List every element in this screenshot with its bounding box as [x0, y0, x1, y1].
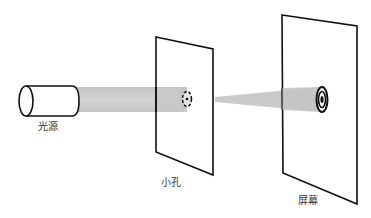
pinhole-aperture	[183, 92, 192, 107]
light-source-label: 光源	[38, 118, 58, 133]
truncated-caption	[0, 210, 371, 218]
diffraction-rings	[317, 87, 328, 112]
pinhole-diffraction-diagram	[0, 0, 371, 218]
light-source-cylinder	[19, 86, 79, 116]
pinhole-label: 小孔	[161, 174, 181, 189]
incident-light-beam-on-plate	[157, 87, 187, 112]
screen-label: 屏幕	[298, 192, 318, 207]
